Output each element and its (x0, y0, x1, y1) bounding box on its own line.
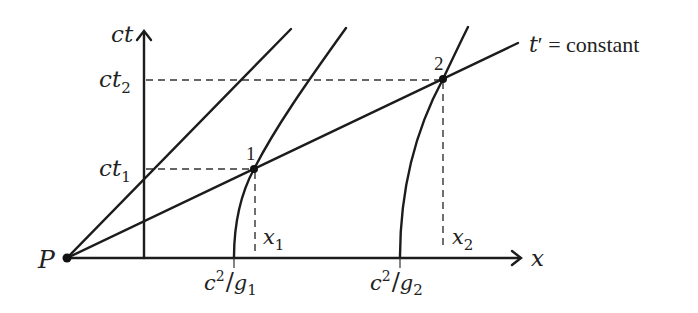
x1-label: x1 (263, 225, 284, 254)
light-line (67, 29, 291, 258)
ct2-label: ct2 (99, 66, 131, 97)
ct-axis-label: ct (111, 21, 134, 47)
event-label-2: 2 (434, 53, 444, 74)
simultaneity-line (67, 43, 518, 258)
x-axis-label: x (531, 245, 544, 271)
event-point-1 (250, 165, 258, 173)
event-label-1: 1 (246, 143, 256, 164)
simultaneity-line-label: t′ = constant (529, 32, 639, 57)
origin-point-P (63, 254, 72, 263)
c2-over-g1-label: c2/g1 (204, 268, 257, 299)
x2-label: x2 (452, 225, 473, 254)
spacetime-diagram: ct x P ct2 ct1 x1 x2 c2/g1 c2/g2 1 2 t′ … (0, 0, 698, 313)
event-point-2 (439, 75, 447, 83)
c2-over-g2-label: c2/g2 (370, 268, 423, 299)
origin-label-P: P (37, 245, 56, 274)
ct1-label: ct1 (99, 155, 131, 186)
